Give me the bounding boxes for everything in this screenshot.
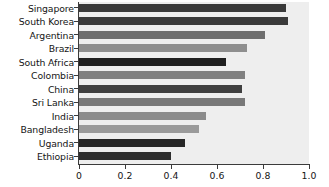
bar-china (79, 85, 242, 93)
category-label-colombia: Colombia (0, 71, 74, 81)
x-tick-label-2: 0.4 (156, 170, 186, 181)
x-tick-label-1: 0.2 (110, 170, 140, 181)
bar-south-africa (79, 58, 226, 66)
category-axis-labels: SingaporeSouth KoreaArgentinaBrazilSouth… (0, 0, 74, 165)
x-tick-0 (79, 165, 80, 169)
category-label-south-africa: South Africa (0, 58, 74, 68)
bar-sri-lanka (79, 98, 245, 106)
bar-bangladesh (79, 125, 199, 133)
category-label-brazil: Brazil (0, 44, 74, 54)
x-tick-1 (125, 165, 126, 169)
y-tick-3 (74, 48, 78, 49)
x-tick-3 (217, 165, 218, 169)
bar-colombia (79, 71, 245, 79)
y-axis-line (78, 2, 79, 165)
y-tick-7 (74, 102, 78, 103)
category-label-argentina: Argentina (0, 31, 74, 41)
x-tick-4 (263, 165, 264, 169)
category-label-ethiopia: Ethiopia (0, 152, 74, 162)
x-tick-2 (171, 165, 172, 169)
category-label-sri-lanka: Sri Lanka (0, 98, 74, 108)
y-tick-5 (74, 75, 78, 76)
bar-argentina (79, 31, 265, 39)
category-label-india: India (0, 112, 74, 122)
y-tick-1 (74, 21, 78, 22)
y-tick-10 (74, 142, 78, 143)
y-tick-9 (74, 129, 78, 130)
category-label-south-korea: South Korea (0, 17, 74, 27)
horizontal-bar-chart: SingaporeSouth KoreaArgentinaBrazilSouth… (0, 0, 329, 187)
bar-uganda (79, 139, 185, 147)
bar-brazil (79, 44, 247, 52)
y-tick-8 (74, 115, 78, 116)
x-tick-5 (309, 165, 310, 169)
bar-singapore (79, 4, 286, 12)
x-tick-label-5: 1.0 (294, 170, 324, 181)
y-tick-2 (74, 34, 78, 35)
y-tick-11 (74, 156, 78, 157)
bar-india (79, 112, 206, 120)
bar-ethiopia (79, 152, 171, 160)
category-label-china: China (0, 85, 74, 95)
y-tick-6 (74, 88, 78, 89)
y-tick-4 (74, 61, 78, 62)
plot-area (79, 2, 309, 164)
x-axis-line (78, 164, 310, 165)
y-tick-0 (74, 7, 78, 8)
category-label-singapore: Singapore (0, 4, 74, 14)
category-label-uganda: Uganda (0, 139, 74, 149)
x-tick-label-4: 0.8 (248, 170, 278, 181)
x-tick-label-3: 0.6 (202, 170, 232, 181)
x-tick-label-0: 0 (64, 170, 94, 181)
category-label-bangladesh: Bangladesh (0, 125, 74, 135)
bar-south-korea (79, 17, 288, 25)
